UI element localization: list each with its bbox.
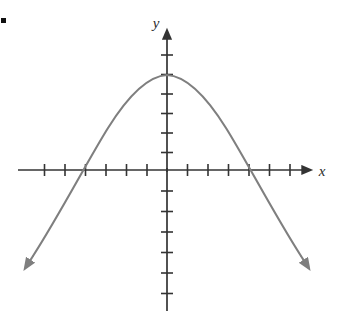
parabola-graph: y x [0,0,344,316]
y-axis-label: y [151,15,160,31]
x-axis-label: x [318,163,326,179]
axes-group [18,38,303,311]
parabola-right-arrow [301,256,305,262]
bullet-marker-icon [1,18,6,23]
parabola-left-arrow [30,256,34,262]
figure-root: y x [0,0,344,316]
